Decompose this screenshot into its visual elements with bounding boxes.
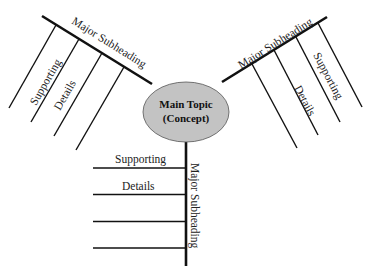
- branch-bottom: Major Subheading Supporting Details: [93, 142, 201, 266]
- branch-upper-right: Major Subheading Supporting Details: [222, 15, 362, 148]
- main-topic-line1: Main Topic: [159, 98, 213, 110]
- main-topic-node: Main Topic (Concept): [143, 82, 229, 142]
- branch-upper-left-detail-2: Details: [51, 77, 78, 112]
- detail-line: [76, 67, 124, 150]
- detail-line: [252, 64, 297, 148]
- spider-map-diagram: Major Subheading Supporting Details Majo…: [0, 0, 367, 273]
- branch-upper-right-heading: Major Subheading: [236, 15, 315, 71]
- branch-bottom-detail-1: Supporting: [115, 153, 166, 166]
- branch-upper-left-heading: Major Subheading: [69, 15, 148, 71]
- branch-bottom-heading: Major Subheading: [188, 163, 201, 249]
- main-topic-line2: (Concept): [163, 112, 210, 125]
- branch-upper-left: Major Subheading Supporting Details: [9, 15, 152, 150]
- branch-upper-right-detail-2: Details: [292, 83, 318, 118]
- branch-bottom-detail-2: Details: [122, 180, 155, 192]
